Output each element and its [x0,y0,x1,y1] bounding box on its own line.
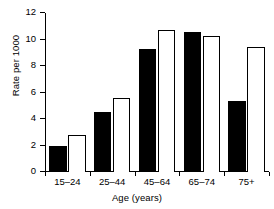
x-axis-tick [135,172,136,176]
x-axis-tick [224,172,225,176]
y-axis-tick: 2 [40,145,45,146]
y-axis-tick: 12 [40,12,45,13]
y-axis-tick-label: 0 [14,165,36,176]
y-axis-tick-label: 10 [14,33,36,44]
y-axis-tick: 8 [40,65,45,66]
x-axis-category-label: 15–24 [54,176,80,187]
x-axis-tick [179,172,180,176]
x-axis-tick [45,172,46,176]
y-axis-tick: 4 [40,118,45,119]
y-axis-tick-label: 8 [14,59,36,70]
bar [184,32,202,172]
plot-area: 024681012 [45,13,269,172]
bar-chart: Rate per 1000 024681012 15–2425–4445–646… [0,0,274,209]
y-axis-tick-label: 12 [14,6,36,17]
bar [68,135,86,172]
x-axis-category-label: 75+ [239,176,255,187]
bar [94,112,112,172]
bar [49,146,67,173]
x-axis-category-label: 45–64 [144,176,170,187]
x-axis-title: Age (years) [0,192,274,203]
x-axis-tick [90,172,91,176]
y-axis-tick-label: 2 [14,139,36,150]
y-axis-tick: 10 [40,39,45,40]
x-axis-category-label: 65–74 [189,176,215,187]
x-axis-category-label: 25–44 [99,176,125,187]
bar [203,36,221,172]
y-axis-tick-label: 6 [14,86,36,97]
x-axis-tick [269,172,270,176]
y-axis-tick-label: 4 [14,112,36,123]
y-axis-line [45,13,46,172]
bar [139,49,157,172]
bar [113,98,131,172]
bar [158,30,176,172]
bar [228,101,246,172]
bar [247,47,265,172]
y-axis-tick: 6 [40,92,45,93]
